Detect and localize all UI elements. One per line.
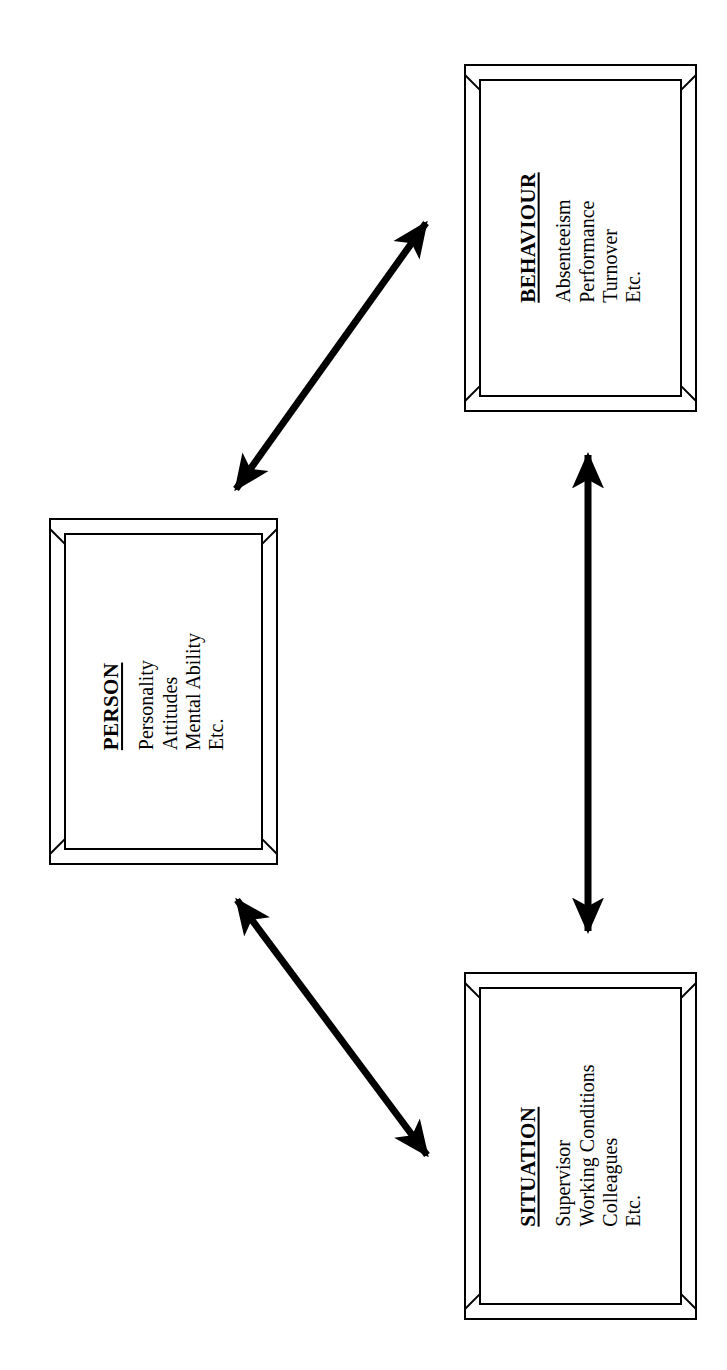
box-situation-title: SITUATION (516, 1065, 540, 1227)
box-person-item-3: Mental Ability (182, 633, 205, 750)
box-behaviour-title: BEHAVIOUR (516, 173, 540, 303)
box-situation-item-3: Colleagues (599, 1065, 622, 1227)
box-behaviour-item-3: Turnover (599, 173, 622, 303)
connector-person-situation (237, 900, 427, 1155)
diagram-canvas: BEHAVIOUR (diagonal, lower-left to upper… (0, 0, 727, 1370)
box-behaviour-item-4: Etc. (622, 173, 645, 303)
box-person-items: Personality Attitudes Mental Ability Etc… (135, 633, 228, 750)
box-person-content: PERSON Personality Attitudes Mental Abil… (51, 520, 276, 863)
box-situation-item-2: Working Conditions (575, 1065, 598, 1227)
box-situation-item-1: Supervisor (552, 1065, 575, 1227)
box-behaviour[interactable]: BEHAVIOUR Absenteeism Performance Turnov… (464, 64, 697, 412)
box-person[interactable]: PERSON Personality Attitudes Mental Abil… (49, 518, 278, 865)
box-behaviour-item-2: Performance (575, 173, 598, 303)
connector-person-behaviour (236, 223, 426, 489)
box-person-item-1: Personality (135, 633, 158, 750)
box-behaviour-items: Absenteeism Performance Turnover Etc. (552, 173, 645, 303)
box-situation-item-4: Etc. (622, 1065, 645, 1227)
box-person-item-4: Etc. (205, 633, 228, 750)
box-situation-content: SITUATION Supervisor Working Conditions … (466, 974, 695, 1318)
box-behaviour-item-1: Absenteeism (552, 173, 575, 303)
box-situation-items: Supervisor Working Conditions Colleagues… (552, 1065, 645, 1227)
box-behaviour-content: BEHAVIOUR Absenteeism Performance Turnov… (466, 66, 695, 410)
box-person-title: PERSON (99, 633, 123, 750)
box-situation[interactable]: SITUATION Supervisor Working Conditions … (464, 972, 697, 1320)
box-person-item-2: Attitudes (158, 633, 181, 750)
